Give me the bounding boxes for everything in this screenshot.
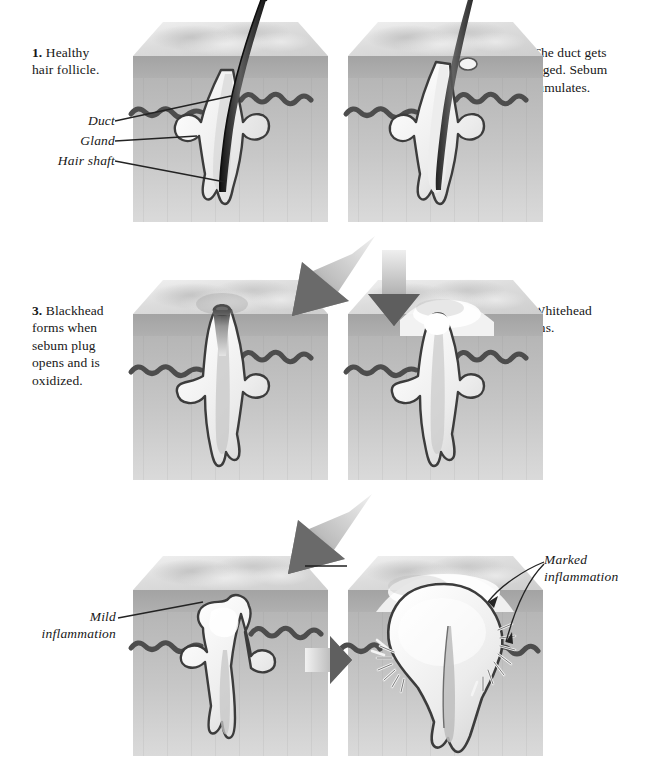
panel-4-illustration bbox=[346, 279, 543, 480]
panel-1-illustration bbox=[115, 0, 328, 222]
panel-5a-illustration bbox=[118, 555, 328, 756]
panel-5b-illustration bbox=[340, 555, 544, 756]
acne-formation-diagram: 1. Healthy hair follicle. 2. The duct ge… bbox=[0, 0, 649, 772]
panel-2-illustration bbox=[346, 0, 543, 222]
arrow-4-to-5 bbox=[288, 494, 372, 574]
diagram-artwork bbox=[0, 0, 649, 772]
